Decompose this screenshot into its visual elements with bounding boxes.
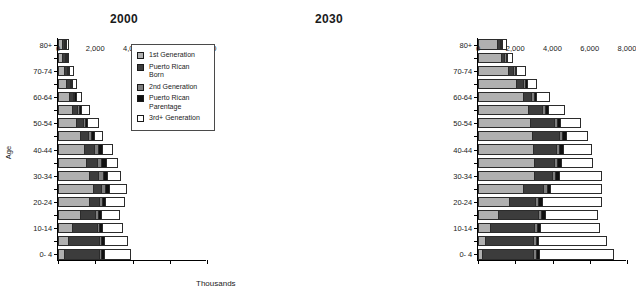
y-axis-tick <box>54 58 58 59</box>
bar-segment <box>523 92 531 102</box>
bar-segment <box>490 223 535 233</box>
bar-segment <box>478 171 534 181</box>
y-axis-tick <box>474 136 478 137</box>
y-axis-tick <box>54 254 58 255</box>
y-axis-tick <box>474 228 478 229</box>
plot-area-2030: 0- 410-1420-2430-3440-4450-5460-6470-748… <box>477 38 626 261</box>
y-axis-label: 0- 4 <box>39 250 52 259</box>
bar-segment <box>66 39 68 49</box>
x-axis-tick <box>553 260 554 264</box>
bar-row <box>58 118 99 128</box>
bar-row <box>58 53 69 63</box>
y-axis-tick <box>54 97 58 98</box>
x-axis-tick <box>627 260 628 264</box>
bar-segment <box>89 171 99 181</box>
bar-segment <box>540 223 599 233</box>
x-axis-label: 0 <box>476 44 480 53</box>
bar-segment <box>93 184 101 194</box>
bar-segment <box>87 118 99 128</box>
bar-segment <box>58 236 68 246</box>
y-axis-tick <box>474 110 478 111</box>
bar-segment <box>105 197 125 207</box>
bar-segment <box>58 79 66 89</box>
y-axis-tick <box>54 176 58 177</box>
bar-segment <box>478 197 509 207</box>
x-axis-label: 2,000 <box>506 44 525 53</box>
bar-segment <box>104 236 128 246</box>
y-axis-tick <box>474 84 478 85</box>
y-axis-title-2000: Age <box>4 146 13 159</box>
bar-segment <box>478 158 534 168</box>
bar-segment <box>58 197 89 207</box>
legend-item-pr_parentage[interactable]: Puerto Rican Parentage <box>137 94 210 111</box>
bar-segment <box>58 105 72 115</box>
legend-item-gen1[interactable]: 1st Generation <box>137 51 210 60</box>
x-axis-tick <box>58 260 59 264</box>
y-axis-label: 30-34 <box>33 171 52 180</box>
bar-segment <box>89 197 99 207</box>
bar-segment <box>530 118 554 128</box>
bar-row <box>58 158 118 168</box>
bar-row <box>478 66 526 76</box>
bar-segment <box>102 223 123 233</box>
legend-item-label: 3rd+ Generation <box>149 114 200 123</box>
y-axis-label: 20-24 <box>453 197 472 206</box>
legend-item-gen2[interactable]: 2nd Generation <box>137 83 210 92</box>
bar-row <box>478 158 593 168</box>
bar-row <box>58 171 121 181</box>
bar-segment <box>478 92 523 102</box>
bar-segment <box>86 158 98 168</box>
bar-segment <box>72 79 76 89</box>
legend-item-label: Puerto Rican Parentage <box>149 94 189 111</box>
x-axis-tick <box>133 260 134 264</box>
x-axis-tick <box>590 260 591 264</box>
y-axis-label: 50-54 <box>33 119 52 128</box>
bar-segment <box>548 105 565 115</box>
bar-segment <box>58 184 93 194</box>
bar-segment <box>94 131 103 141</box>
x-axis-label: 8,000 <box>618 44 636 53</box>
bar-row <box>478 171 602 181</box>
bar-segment <box>58 210 80 220</box>
bar-segment <box>478 131 532 141</box>
bar-segment <box>478 105 528 115</box>
legend-swatch-icon-pr_parentage <box>137 95 144 102</box>
y-axis-tick <box>54 110 58 111</box>
bar-segment <box>478 236 485 246</box>
chart-title-2030: 2030 <box>213 12 435 26</box>
bar-segment <box>106 158 118 168</box>
y-axis-tick <box>474 58 478 59</box>
bar-segment <box>561 158 594 168</box>
bar-segment <box>478 53 501 63</box>
y-axis-label: 40-44 <box>33 145 52 154</box>
bar-row <box>478 92 550 102</box>
bar-segment <box>58 118 76 128</box>
bar-segment <box>539 249 614 259</box>
bar-segment <box>507 53 513 63</box>
legend-item-gen3plus[interactable]: 3rd+ Generation <box>137 114 210 123</box>
bar-row <box>478 105 565 115</box>
legend-swatch-icon-gen3plus <box>137 115 144 122</box>
x-axis-label: 0 <box>56 44 60 53</box>
bar-segment <box>478 223 490 233</box>
y-axis-tick <box>54 202 58 203</box>
legend-swatch-icon-pr_born <box>137 64 144 71</box>
y-axis-tick <box>54 163 58 164</box>
bar-segment <box>545 210 598 220</box>
bar-segment <box>76 92 82 102</box>
bar-row <box>58 210 120 220</box>
legend-item-pr_born[interactable]: Puerto Rican Born <box>137 63 210 80</box>
legend-item-label: Puerto Rican Born <box>149 63 189 80</box>
bar-segment <box>527 79 538 89</box>
x-axis-label: 6,000 <box>580 44 599 53</box>
bar-row <box>58 236 128 246</box>
bar-row <box>58 223 123 233</box>
x-axis-label: 4,000 <box>543 44 562 53</box>
x-axis-tick <box>478 260 479 264</box>
y-axis-tick <box>54 228 58 229</box>
y-axis-label: 40-44 <box>453 145 472 154</box>
bar-row <box>58 66 74 76</box>
bar-segment <box>58 171 89 181</box>
bar-segment <box>107 171 122 181</box>
y-axis-tick <box>54 136 58 137</box>
